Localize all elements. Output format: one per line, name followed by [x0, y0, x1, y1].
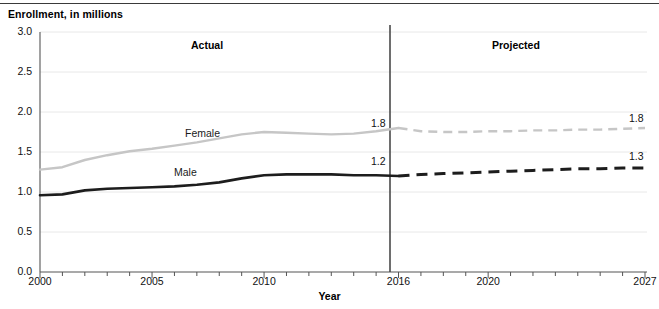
- chart-figure: Enrollment, in millions 3.02.52.01.51.00…: [0, 0, 659, 309]
- gridlines: [40, 32, 647, 232]
- series-label-female: Female: [185, 127, 220, 139]
- x-tick-label: 2027: [625, 275, 659, 287]
- region-label-projected: Projected: [492, 39, 540, 51]
- value-label-male-2027: 1.3: [629, 150, 644, 162]
- x-tick-marks: [40, 272, 645, 278]
- x-axis-title: Year: [0, 290, 659, 302]
- x-tick-label: 2005: [132, 275, 172, 287]
- y-tick-label: 2.0: [6, 105, 32, 117]
- value-label-female-2016: 1.8: [371, 117, 386, 129]
- x-tick-label: 2010: [244, 275, 284, 287]
- y-tick-label: 1.0: [6, 185, 32, 197]
- y-tick-label: 2.5: [6, 65, 32, 77]
- region-label-actual: Actual: [191, 39, 223, 51]
- x-tick-label: 2016: [379, 275, 419, 287]
- male-projected-line: [399, 168, 645, 176]
- chart-plot-area: [0, 0, 659, 309]
- series-label-male: Male: [174, 166, 197, 178]
- y-tick-label: 0.5: [6, 225, 32, 237]
- y-tick-label: 1.5: [6, 145, 32, 157]
- female-projected-line: [399, 128, 645, 132]
- x-tick-label: 2000: [20, 275, 60, 287]
- value-label-male-2016: 1.2: [371, 155, 386, 167]
- value-label-female-2027: 1.8: [629, 112, 644, 124]
- x-tick-label: 2020: [468, 275, 508, 287]
- y-tick-label: 3.0: [6, 25, 32, 37]
